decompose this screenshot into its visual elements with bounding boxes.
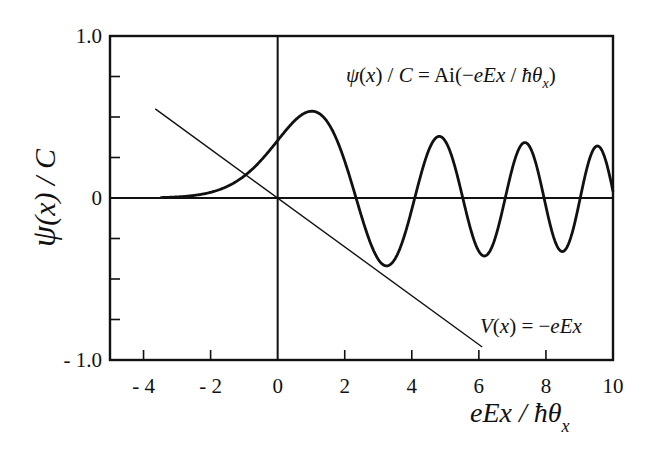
annot-v-eex: eEx: [550, 314, 582, 338]
annot-eex: eEx: [474, 63, 506, 87]
y-axis-label-psi: ψ: [25, 225, 62, 247]
potential-line: [155, 109, 482, 347]
y-axis-label: ψ(x) / C: [25, 148, 62, 247]
y-tick-label: 0: [92, 186, 103, 210]
annot-psi: ψ: [346, 63, 360, 87]
x-tick-label: 10: [603, 374, 624, 398]
annot-close: ): [549, 63, 556, 87]
series-layer: [155, 109, 613, 347]
annot-htheta: ħθ: [522, 63, 543, 87]
wavefunction-curve: [160, 111, 613, 266]
x-tick-label: 4: [407, 374, 418, 398]
x-tick-label: 0: [272, 374, 283, 398]
annot-paren: (: [359, 63, 366, 87]
annot-c: C: [399, 63, 414, 87]
y-axis-label-rest: (x) / C: [28, 148, 62, 226]
annot-ai: = Ai(−: [413, 63, 474, 87]
annot-slash: /: [505, 63, 521, 87]
x-tick-label: - 4: [132, 374, 155, 398]
x-axis-label-subscript: x: [561, 416, 570, 436]
potential-line-annotation: V(x) = −eEx: [480, 314, 582, 338]
x-tick-label: 2: [339, 374, 350, 398]
x-tick-label: - 2: [199, 374, 222, 398]
annot-v-eq: ) = −: [509, 314, 550, 338]
chart: - 4- 20246810- 1.001.0 ψ(x) / C eEx / ħθ…: [0, 0, 651, 459]
x-axis-label: eEx / ħθx: [470, 397, 570, 436]
annot-v-paren: (: [493, 314, 500, 338]
psi-curve-annotation: ψ(x) / C = Ai(−eEx / ħθx): [346, 63, 556, 91]
y-tick-label: - 1.0: [64, 348, 103, 372]
x-axis-label-main: eEx / ħθ: [470, 397, 562, 428]
y-tick-label: 1.0: [76, 24, 102, 48]
x-tick-label: 8: [541, 374, 552, 398]
annot-div: ) /: [375, 63, 398, 87]
x-tick-label: 6: [474, 374, 485, 398]
